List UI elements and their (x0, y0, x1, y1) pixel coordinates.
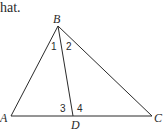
vertex-label-a: A (0, 111, 8, 125)
segment-bc (58, 26, 152, 116)
angle-label-1: 1 (51, 41, 57, 52)
segment-ab (11, 26, 58, 116)
angle-label-3: 3 (60, 103, 66, 114)
text-fragment: hat. (0, 0, 21, 15)
triangle-diagram: hat. B A D C 1 2 3 4 (0, 0, 165, 130)
vertex-label-b: B (53, 12, 61, 26)
angle-label-2: 2 (66, 41, 72, 52)
vertex-label-c: C (154, 111, 163, 125)
angle-label-4: 4 (77, 103, 83, 114)
vertex-label-d: D (70, 118, 80, 130)
